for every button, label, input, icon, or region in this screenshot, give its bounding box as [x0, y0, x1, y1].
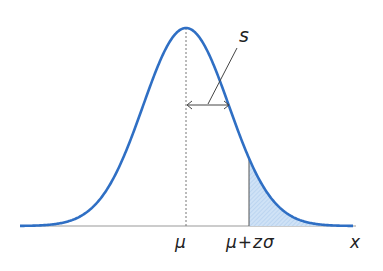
shaded-tail-area [249, 158, 353, 226]
label-mu-plus-z-sigma: μ+zσ [226, 234, 275, 251]
s-pointer-line [208, 48, 237, 104]
label-mu: μ [175, 234, 186, 251]
label-x: x [350, 234, 360, 251]
normal-curve-diagram [0, 0, 383, 271]
label-s: s [239, 26, 249, 45]
